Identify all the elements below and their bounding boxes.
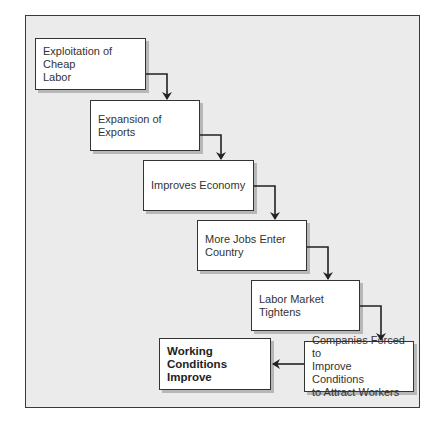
node-label: Companies Forced to Improve Conditions t… bbox=[312, 334, 406, 399]
node-working-conditions-improve: Working Conditions Improve bbox=[159, 338, 271, 390]
node-label: Expansion of Exports bbox=[98, 113, 162, 139]
node-labor-market-tightens: Labor Market Tightens bbox=[251, 280, 360, 331]
node-label: Improves Economy bbox=[151, 179, 245, 192]
node-label: More Jobs Enter Country bbox=[205, 233, 286, 259]
node-label: Working Conditions Improve bbox=[167, 345, 227, 384]
node-label: Labor Market Tightens bbox=[259, 293, 324, 319]
node-label: Exploitation of Cheap Labor bbox=[43, 45, 138, 84]
node-companies-forced-to-improve: Companies Forced to Improve Conditions t… bbox=[304, 341, 414, 392]
node-more-jobs-enter-country: More Jobs Enter Country bbox=[197, 220, 307, 271]
node-expansion-of-exports: Expansion of Exports bbox=[90, 100, 200, 151]
node-improves-economy: Improves Economy bbox=[143, 160, 254, 211]
node-exploitation-of-cheap-labor: Exploitation of Cheap Labor bbox=[35, 38, 146, 90]
